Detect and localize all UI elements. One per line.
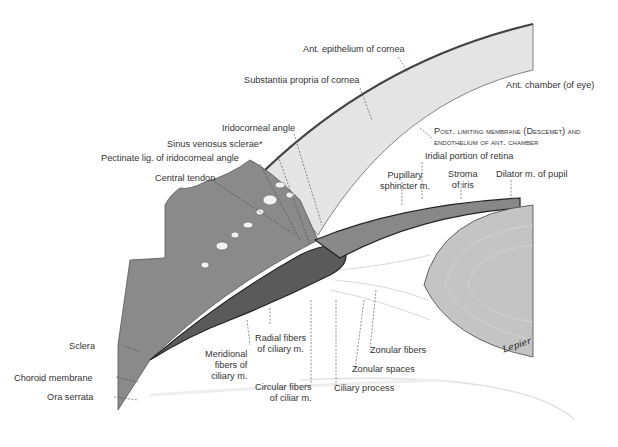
label-dilator: Dilator m. of pupil (496, 169, 568, 180)
label-stroma-line2: of iris (452, 180, 474, 190)
label-ant-epithelium: Ant. epithelium of cornea (303, 44, 405, 55)
eye-anatomy-illustration (0, 0, 618, 447)
label-radial-line2: of ciliary m. (257, 344, 303, 354)
label-pupillary-line2: sphincter m. (380, 181, 430, 191)
label-pupillary-line1: Pupillary (387, 170, 422, 180)
label-meridional-fibers: Meridionalfibers ofciliary m. (205, 349, 247, 382)
label-ant-chamber: Ant. chamber (of eye) (506, 80, 594, 91)
label-stroma-iris: Stromaof iris (448, 169, 478, 191)
label-post-limiting-line1: Post. limiting membrane (Descemet) and (434, 126, 580, 136)
label-zonular-fibers: Zonular fibers (370, 345, 426, 356)
label-pectinate-lig: Pectinate lig. of iridocorneal angle (101, 153, 239, 164)
label-radial-fibers: Radial fibersof ciliary m. (255, 333, 306, 355)
label-ciliary-process: Ciliary process (334, 383, 394, 394)
label-meridional-line2: fibers of (215, 360, 248, 370)
label-sclera: Sclera (69, 341, 95, 352)
label-radial-line1: Radial fibers (255, 333, 306, 343)
label-ora-serrata: Ora serrata (47, 392, 93, 403)
label-circular-fibers: Circular fibersof ciliar m. (255, 382, 312, 404)
label-circular-line2: of ciliar m. (270, 393, 312, 403)
label-pupillary-sphincter: Pupillarysphincter m. (380, 170, 430, 192)
label-post-limiting-membrane: Post. limiting membrane (Descemet) anden… (434, 126, 580, 148)
label-meridional-line3: ciliary m. (211, 371, 247, 381)
label-iridial-portion: Iridial portion of retina (425, 151, 513, 162)
label-substantia-propria: Substantia propria of cornea (244, 75, 359, 86)
label-sinus-venosus: Sinus venosus sclerae* (167, 139, 263, 150)
label-meridional-line1: Meridional (205, 349, 247, 359)
label-post-limiting-line2: endothelium of ant. chamber (434, 137, 538, 147)
label-circular-line1: Circular fibers (255, 382, 312, 392)
label-central-tendon: Central tendon (155, 173, 215, 184)
label-iridocorneal-angle: Iridocorneal angle (222, 123, 295, 134)
label-choroid: Choroid membrane (14, 373, 93, 384)
label-stroma-line1: Stroma (448, 169, 478, 179)
label-zonular-spaces: Zonular spaces (352, 364, 415, 375)
